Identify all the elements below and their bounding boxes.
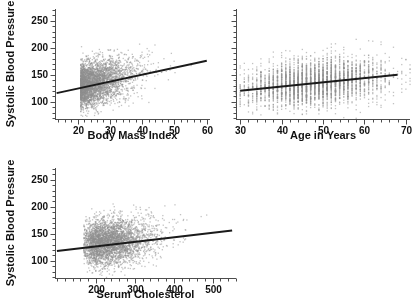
scatterplot-figure [0,0,416,304]
scatterplot-canvas [0,0,416,304]
